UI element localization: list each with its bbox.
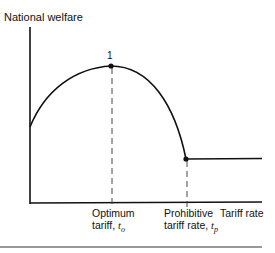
x-axis [30, 202, 262, 203]
prohibitive-tariff-label: Prohibitive tariff rate, tp [164, 207, 218, 236]
peak-point [108, 63, 113, 68]
optimum-tariff-label: Optimum tariff, to [92, 207, 135, 236]
prohibitive-point [183, 156, 188, 161]
y-axis-label: National welfare [4, 11, 83, 23]
flat-segment [186, 159, 262, 160]
x-axis-label: Tariff rate [220, 207, 264, 219]
welfare-curve [30, 66, 186, 159]
peak-label: 1 [107, 50, 113, 61]
